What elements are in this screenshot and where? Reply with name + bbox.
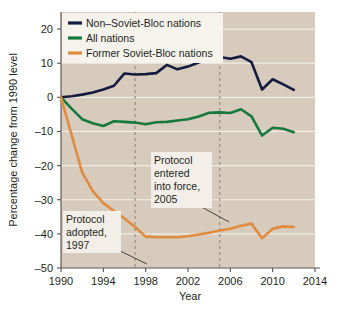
x-axis-tick-labels: 1990199419982002200620102014: [49, 275, 327, 287]
y-tick-label: –20: [35, 160, 53, 172]
y-tick-label: –50: [35, 262, 53, 274]
annotation-line-force-0: Protocol: [154, 154, 193, 166]
x-tick-label: 2014: [303, 275, 327, 287]
x-tick-label: 1994: [91, 275, 115, 287]
y-axis-ticks: [57, 29, 61, 268]
annotation-line-force-3: 2005: [154, 193, 178, 205]
annotation-line-adopted-1: adopted,: [66, 226, 107, 238]
x-tick-label: 2002: [176, 275, 200, 287]
x-tick-label: 2010: [260, 275, 284, 287]
y-tick-label: –10: [35, 125, 53, 137]
x-tick-label: 1990: [49, 275, 73, 287]
y-axis-tick-labels: 20100–10–20–30–40–50: [35, 23, 53, 274]
chart-legend: Non–Soviet-Bloc nations All nations Form…: [62, 13, 223, 63]
y-axis-title: Percentage change from 1990 level: [7, 53, 19, 227]
annotation-line-force-2: into force,: [154, 180, 200, 192]
y-tick-label: 0: [47, 91, 53, 103]
x-tick-label: 1998: [133, 275, 157, 287]
legend-label-former-soviet-bloc: Former Soviet-Bloc nations: [86, 47, 213, 59]
line-chart: 20100–10–20–30–40–50 1990199419982002200…: [0, 0, 341, 311]
legend-label-all-nations: All nations: [86, 32, 134, 44]
x-tick-label: 2006: [218, 275, 242, 287]
legend-label-non-soviet-bloc: Non–Soviet-Bloc nations: [86, 17, 201, 29]
y-tick-label: 10: [41, 57, 53, 69]
annotation-line-force-1: entered: [154, 167, 190, 179]
annotation-line-adopted-2: 1997: [66, 239, 90, 251]
x-axis-title: Year: [179, 290, 202, 302]
y-tick-label: –40: [35, 228, 53, 240]
y-tick-label: –30: [35, 194, 53, 206]
annotation-line-adopted-0: Protocol: [66, 213, 105, 225]
chart-figure: 20100–10–20–30–40–50 1990199419982002200…: [0, 0, 341, 311]
y-tick-label: 20: [41, 23, 53, 35]
